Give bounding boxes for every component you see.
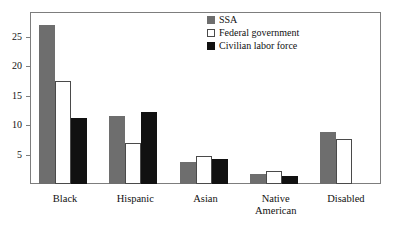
x-axis-category-line: American — [231, 205, 321, 217]
y-axis-tick-label: 5 — [2, 150, 22, 160]
legend-item: Federal government — [207, 27, 337, 39]
chart-legend: SSAFederal governmentCivilian labor forc… — [207, 14, 337, 53]
legend-swatch-icon — [207, 16, 215, 24]
bar — [180, 162, 196, 184]
bar — [71, 118, 87, 184]
bar — [196, 156, 212, 184]
bar — [282, 176, 298, 184]
legend-item: SSA — [207, 14, 337, 26]
y-axis-tick-label: 20 — [2, 61, 22, 71]
legend-item-label: Federal government — [219, 28, 299, 38]
y-axis-tick-label: 15 — [2, 91, 22, 101]
bar-chart: 510152025 BlackHispanicAsianNativeAmeric… — [0, 0, 395, 226]
x-axis-category-label: Disabled — [301, 193, 391, 205]
legend-item-label: Civilian labor force — [219, 41, 297, 51]
x-axis-category-line: Disabled — [301, 193, 391, 205]
y-axis-tick-label: 10 — [2, 120, 22, 130]
bar — [39, 25, 55, 184]
legend-swatch-icon — [207, 29, 215, 37]
bar — [266, 171, 282, 184]
y-axis-tick-label: 25 — [2, 32, 22, 42]
legend-item-label: SSA — [219, 15, 237, 25]
legend-swatch-icon — [207, 42, 215, 50]
bar — [250, 174, 266, 184]
bar — [320, 132, 336, 184]
bar — [55, 81, 71, 184]
bar — [141, 112, 157, 184]
bar — [125, 143, 141, 184]
bar — [336, 139, 352, 184]
bar — [109, 116, 125, 184]
legend-item: Civilian labor force — [207, 40, 337, 52]
bar — [212, 159, 228, 184]
